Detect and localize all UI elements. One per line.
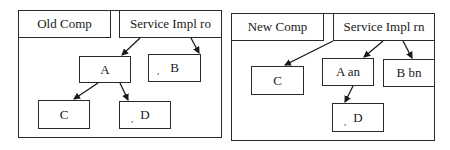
new-node-c: C (251, 66, 304, 95)
old-node-b: B , (148, 54, 201, 82)
new-node-a-an: A an (322, 58, 374, 86)
old-node-c: C (38, 100, 90, 129)
old-node-c-label: C (60, 107, 69, 123)
service-impl-rn-header: Service Impl rn (333, 13, 435, 41)
new-node-b-bn-label: B bn (397, 65, 422, 81)
new-node-a-an-label: A an (336, 64, 360, 80)
service-impl-rn-label: Service Impl rn (344, 19, 425, 35)
new-node-d: D , (332, 103, 384, 132)
new-node-d-mark: , (344, 117, 346, 127)
new-node-d-label: D (353, 110, 362, 126)
new-node-c-label: C (273, 73, 282, 89)
old-comp-header: Old Comp (18, 10, 111, 38)
old-node-a-label: A (100, 62, 109, 78)
old-node-b-mark: , (157, 66, 159, 76)
new-comp-header: New Comp (231, 13, 324, 41)
old-comp-label: Old Comp (37, 16, 92, 32)
old-node-b-label: B (170, 60, 179, 76)
service-impl-ro-header: Service Impl ro (119, 10, 222, 38)
old-node-d: D , (119, 101, 171, 129)
service-impl-ro-label: Service Impl ro (130, 16, 211, 32)
old-node-d-label: D (140, 107, 149, 123)
old-node-a: A (79, 56, 131, 83)
new-comp-label: New Comp (248, 19, 308, 35)
old-node-d-mark: , (131, 114, 133, 124)
new-node-b-bn: B bn (383, 59, 435, 87)
